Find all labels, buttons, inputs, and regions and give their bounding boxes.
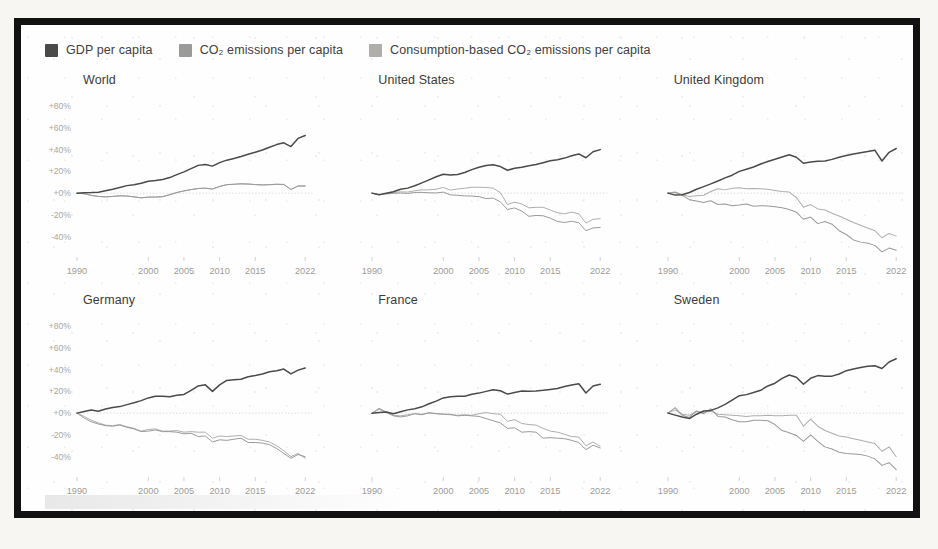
x-axis-tick-label: 2010 [209,266,229,276]
panel-plot: 199020002005201020152022 [622,71,913,291]
x-axis-tick-label: 2005 [764,266,784,276]
panel-plot: 199020002005201020152022 [326,71,621,291]
series-line-gdp [77,368,305,413]
x-axis-tick-label: 2010 [800,486,820,496]
series-line-co2 [372,408,600,449]
x-axis-tick-label: 2015 [245,266,265,276]
panel-grid: World+80%+60%+40%+20%+0%-20%-40%19902000… [31,71,913,511]
series-line-co2 [77,184,305,198]
x-axis-tick-label: 2022 [295,266,315,276]
x-axis-tick-label: 2010 [505,486,525,496]
x-axis-tick-label: 2015 [540,266,560,276]
x-axis-tick-label: 2005 [174,266,194,276]
x-axis-tick-label: 2010 [505,266,525,276]
panel-plot: 199020002005201020152022 [622,291,913,511]
chart-frame: GDP per capitaCO₂ emissions per capitaCo… [14,18,920,518]
series-line-co2 [77,413,305,458]
scan-artifact [45,495,405,509]
legend-swatch-co2 [179,44,192,57]
y-axis-tick-label: +80% [49,321,72,331]
chart-legend: GDP per capitaCO₂ emissions per capitaCo… [45,43,651,57]
legend-item-gdp[interactable]: GDP per capita [45,43,153,57]
panel-plot: +80%+60%+40%+20%+0%-20%-40%1990200020052… [31,71,326,291]
x-axis-tick-label: 1990 [362,266,382,276]
x-axis-tick-label: 2000 [433,266,453,276]
y-axis-tick-label: -20% [51,210,71,220]
x-axis-tick-label: 2005 [469,486,489,496]
y-axis-tick-label: +60% [49,343,72,353]
panel-germany[interactable]: Germany+80%+60%+40%+20%+0%-20%-40%199020… [31,291,326,511]
y-axis-tick-label: -20% [51,430,71,440]
x-axis-tick-label: 2015 [836,486,856,496]
y-axis-tick-label: +40% [49,145,72,155]
chart-sheet: GDP per capitaCO₂ emissions per capitaCo… [21,25,913,511]
legend-item-co2[interactable]: CO₂ emissions per capita [179,43,343,57]
screenshot-root: GDP per capitaCO₂ emissions per capitaCo… [0,0,938,549]
series-line-cbco2 [372,187,600,223]
x-axis-tick-label: 2022 [886,266,906,276]
x-axis-tick-label: 2022 [590,266,610,276]
series-line-co2 [668,192,896,252]
x-axis-tick-label: 1990 [67,266,87,276]
series-line-gdp [372,384,600,414]
legend-item-cbco2[interactable]: Consumption-based CO₂ emissions per capi… [369,43,651,57]
x-axis-tick-label: 2010 [800,266,820,276]
series-line-co2 [372,192,600,231]
x-axis-tick-label: 2000 [433,486,453,496]
y-axis-tick-label: -40% [51,232,71,242]
y-axis-tick-label: +20% [49,166,72,176]
series-line-cbco2 [668,188,896,238]
legend-swatch-gdp [45,44,58,57]
x-axis-tick-label: 2015 [540,486,560,496]
legend-label-co2: CO₂ emissions per capita [200,43,343,57]
y-axis-tick-label: +60% [49,123,72,133]
series-line-gdp [668,149,896,196]
y-axis-tick-label: +40% [49,365,72,375]
series-line-cbco2 [668,410,896,457]
series-line-co2 [668,408,896,470]
y-axis-tick-label: +0% [54,408,72,418]
x-axis-tick-label: 2015 [836,266,856,276]
x-axis-tick-label: 2000 [138,266,158,276]
panel-france[interactable]: France199020002005201020152022 [326,291,621,511]
x-axis-tick-label: 2000 [729,266,749,276]
y-axis-tick-label: +0% [54,188,72,198]
panel-sweden[interactable]: Sweden199020002005201020152022 [622,291,913,511]
legend-swatch-cbco2 [369,44,382,57]
y-axis-tick-label: -40% [51,452,71,462]
y-axis-tick-label: +80% [49,101,72,111]
panel-united-states[interactable]: United States199020002005201020152022 [326,71,621,291]
series-line-gdp [668,359,896,419]
series-line-cbco2 [77,413,305,458]
x-axis-tick-label: 2022 [590,486,610,496]
y-axis-tick-label: +20% [49,386,72,396]
x-axis-tick-label: 1990 [657,266,677,276]
series-line-cbco2 [77,184,305,198]
x-axis-tick-label: 2022 [886,486,906,496]
panel-world[interactable]: World+80%+60%+40%+20%+0%-20%-40%19902000… [31,71,326,291]
x-axis-tick-label: 2000 [729,486,749,496]
legend-label-cbco2: Consumption-based CO₂ emissions per capi… [390,43,651,57]
series-line-cbco2 [372,409,600,446]
panel-united-kingdom[interactable]: United Kingdom199020002005201020152022 [622,71,913,291]
x-axis-tick-label: 2005 [469,266,489,276]
panel-plot: 199020002005201020152022 [326,291,621,511]
x-axis-tick-label: 2005 [764,486,784,496]
panel-plot: +80%+60%+40%+20%+0%-20%-40%1990200020052… [31,291,326,511]
x-axis-tick-label: 1990 [657,486,677,496]
legend-label-gdp: GDP per capita [66,43,153,57]
